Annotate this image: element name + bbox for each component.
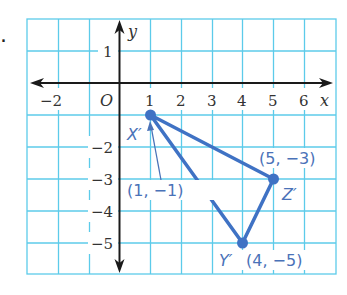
- leader-line-x-prime: [151, 126, 161, 180]
- svg-text:4: 4: [237, 92, 247, 110]
- svg-text:−4: −4: [91, 203, 113, 221]
- svg-text:5: 5: [268, 92, 278, 110]
- leader-arrowhead-icon: [147, 121, 154, 131]
- svg-text:2: 2: [176, 92, 186, 110]
- label-y-prime: Y′: [219, 251, 233, 270]
- coordinate-plane: . y x O: [0, 0, 347, 295]
- svg-text:3: 3: [207, 92, 217, 110]
- x-axis-label: x: [320, 91, 329, 110]
- point-z-prime: [268, 174, 279, 185]
- label-x-prime: X′: [126, 125, 142, 144]
- svg-text:1: 1: [145, 92, 155, 110]
- svg-text:6: 6: [299, 92, 309, 110]
- y-axis-label: y: [127, 22, 138, 41]
- coord-y-prime: (4, −5): [246, 251, 302, 270]
- svg-text:−5: −5: [91, 235, 113, 253]
- coord-x-prime: (1, −1): [127, 181, 183, 200]
- svg-text:−2: −2: [91, 139, 113, 157]
- problem-marker: .: [0, 22, 7, 47]
- svg-text:−3: −3: [91, 171, 113, 189]
- point-x-prime: [145, 110, 156, 121]
- grid: [27, 19, 336, 274]
- point-y-prime: [237, 238, 248, 249]
- label-z-prime: Z′: [281, 185, 297, 204]
- svg-text:−2: −2: [40, 92, 62, 110]
- origin-label: O: [100, 91, 113, 110]
- svg-text:1: 1: [103, 43, 113, 61]
- coord-z-prime: (5, −3): [259, 149, 315, 168]
